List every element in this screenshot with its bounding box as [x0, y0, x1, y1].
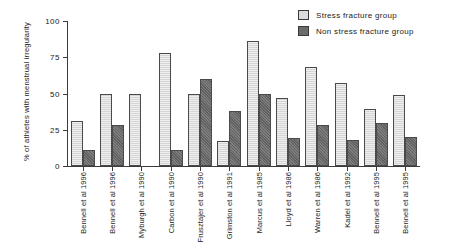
- x-axis-tick-label: Bennell et al 1996: [107, 172, 116, 234]
- bar-group: [361, 21, 390, 166]
- x-axis-tick-mark: [361, 166, 390, 171]
- y-axis-tick-label: 0: [55, 162, 60, 171]
- bar-light: [217, 141, 229, 166]
- x-axis-tick-label: Bennell et al 1996: [78, 172, 87, 234]
- y-axis-tick-label: 50: [50, 89, 60, 98]
- x-axis-label-cell: Myburgh et al 1990: [127, 172, 156, 242]
- bar-light: [276, 98, 288, 166]
- bar-dark: [83, 150, 95, 166]
- x-axis-tick-label: Frusztajer et al 1990: [195, 172, 204, 242]
- x-axis-label-cell: Grimston et al 1991: [215, 172, 244, 242]
- bar-group: [332, 21, 361, 166]
- bar-light: [247, 41, 259, 166]
- bar-dark: [317, 125, 329, 166]
- x-axis-tick-mark: [332, 166, 361, 171]
- x-axis-label-cell: Lloyd et al 1986: [273, 172, 302, 242]
- bar-light: [159, 53, 171, 166]
- x-axis-tick-label: Carbon et al 1990: [166, 172, 175, 233]
- bar-dark: [347, 140, 359, 166]
- bar-group: [68, 21, 97, 166]
- legend-swatch-icon-stress-fracture-group: [298, 10, 309, 20]
- x-axis-tick-label: Lloyd et al 1986: [283, 172, 292, 227]
- x-axis-label-cell: Carbon et al 1990: [156, 172, 185, 242]
- x-axis-label-cell: Marcus et al 1985: [244, 172, 273, 242]
- x-axis-tick-label: Warren et al 1986: [313, 172, 322, 233]
- x-axis-label-cell: Bennell et al 1995: [361, 172, 390, 242]
- bar-group: [97, 21, 126, 166]
- bar-dark: [288, 138, 300, 166]
- bar-group: [215, 21, 244, 166]
- bar-light: [71, 121, 83, 166]
- x-axis-tick-label: Myburgh et al 1990: [137, 172, 146, 238]
- x-axis-tick-mark: [97, 166, 126, 171]
- x-axis-label-cell: Bennell et al 1996: [68, 172, 97, 242]
- bar-dark: [405, 137, 417, 166]
- bar-dark: [171, 150, 183, 166]
- bar-dark: [259, 94, 271, 167]
- bar-group: [273, 21, 302, 166]
- x-axis-tick-mark: [391, 166, 420, 171]
- bar-light: [393, 95, 405, 166]
- x-axis-tick-mark: [156, 166, 185, 171]
- bar-light: [305, 67, 317, 166]
- bar-group: [244, 21, 273, 166]
- bar-dark: [376, 123, 388, 167]
- bar-group: [127, 21, 156, 166]
- x-axis-labels: Bennell et al 1996Bennell et al 1996Mybu…: [68, 172, 420, 242]
- legend-label-stress-fracture-group: Stress fracture group: [316, 11, 397, 20]
- bar-light: [188, 94, 200, 167]
- legend-item-stress-fracture-group: Stress fracture group: [298, 10, 414, 20]
- y-axis-title: % of athletes with menstrual irregularit…: [22, 22, 31, 162]
- x-axis-label-cell: Kadel et al 1992: [332, 172, 361, 242]
- x-axis-tick-mark: [127, 166, 156, 171]
- bar-light: [364, 109, 376, 166]
- x-axis-tick-label: Bennell et al 1995: [371, 172, 380, 234]
- y-axis-tick-label: 75: [50, 53, 60, 62]
- bar-dark: [229, 111, 241, 166]
- x-axis-tick-mark: [273, 166, 302, 171]
- bar-dark: [200, 79, 212, 166]
- bar-groups: [68, 21, 420, 166]
- plot-area: 0255075100: [68, 21, 420, 166]
- y-axis-tick-label: 25: [50, 125, 60, 134]
- x-axis-tick-label: Bennell et al 1995: [401, 172, 410, 234]
- bar-group: [391, 21, 420, 166]
- bar-group: [185, 21, 214, 166]
- x-axis-tick-label: Marcus et al 1985: [254, 172, 263, 233]
- x-axis-tick-label: Grimston et al 1991: [225, 172, 234, 239]
- bar-group: [303, 21, 332, 166]
- x-axis-tick-mark: [185, 166, 214, 171]
- bar-light: [129, 94, 141, 167]
- x-axis-label-cell: Warren et al 1986: [303, 172, 332, 242]
- bar-group: [156, 21, 185, 166]
- x-axis-tick-mark: [215, 166, 244, 171]
- chart-figure: Stress fracture group Non stress fractur…: [0, 0, 455, 244]
- x-axis-tick-mark: [303, 166, 332, 171]
- x-axis-label-cell: Frusztajer et al 1990: [185, 172, 214, 242]
- x-axis-ticks: [68, 166, 420, 171]
- x-axis-label-cell: Bennell et al 1995: [391, 172, 420, 242]
- x-axis-tick-mark: [68, 166, 97, 171]
- bar-dark: [112, 125, 124, 166]
- x-axis-tick-mark: [244, 166, 273, 171]
- x-axis-tick-label: Kadel et al 1992: [342, 172, 351, 228]
- bar-light: [335, 83, 347, 166]
- bar-light: [100, 94, 112, 167]
- y-axis-tick-label: 100: [45, 17, 60, 26]
- x-axis-label-cell: Bennell et al 1996: [97, 172, 126, 242]
